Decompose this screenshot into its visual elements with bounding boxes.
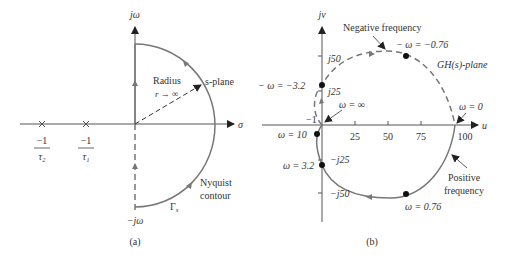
u-axis-label: u bbox=[482, 120, 487, 131]
x-tick-50: 50 bbox=[383, 131, 393, 142]
arrow-icon bbox=[319, 98, 324, 104]
pole1-numerator: −1 bbox=[37, 135, 48, 146]
minus-one-label: −1 bbox=[306, 114, 317, 125]
positive-label: Positive bbox=[448, 172, 481, 183]
panel-a: −1 τ₂ −1 τ₁ jω −jω σ Radius r → ∞ s-plan… bbox=[20, 9, 244, 248]
label-w-neg-32: − ω = −3.2 bbox=[258, 80, 305, 91]
y-tick-j50: j50 bbox=[326, 53, 341, 64]
radius-limit-label: r → ∞ bbox=[155, 89, 178, 99]
y-tick-neg-j25: −j25 bbox=[330, 154, 350, 165]
nyquist-figure: −1 τ₂ −1 τ₁ jω −jω σ Radius r → ∞ s-plan… bbox=[0, 0, 509, 256]
point-neg-32 bbox=[319, 82, 325, 88]
sigma-axis-label: σ bbox=[238, 119, 244, 130]
jw-axis-label: jω bbox=[128, 9, 140, 20]
x-tick-25: 25 bbox=[350, 131, 360, 142]
arrow-up-icon bbox=[132, 80, 138, 86]
panel-b: jv u 25 50 75 100 j50 j25 −j25 −j50 −1 N… bbox=[258, 9, 488, 248]
label-w-neg-076: − ω = −0.76 bbox=[396, 39, 448, 50]
x-tick-100: 100 bbox=[458, 131, 473, 142]
point-32 bbox=[319, 162, 325, 168]
neg-freq-pointer bbox=[373, 36, 385, 49]
point-10 bbox=[314, 131, 320, 137]
jv-axis-label: jv bbox=[316, 9, 326, 20]
label-w-076: ω = 0.76 bbox=[405, 201, 441, 212]
frequency-label: frequency bbox=[444, 185, 484, 196]
point-076 bbox=[403, 191, 409, 197]
label-w-10: ω = 10 bbox=[278, 129, 307, 140]
w-inf-pointer bbox=[325, 110, 342, 122]
s-plane-label: s-plane bbox=[205, 76, 234, 87]
w-zero-pointer bbox=[457, 113, 466, 123]
arrow-right-icon bbox=[369, 51, 375, 57]
pole2-numerator: −1 bbox=[81, 135, 92, 146]
label-w-32: ω = 3.2 bbox=[283, 160, 314, 171]
gamma-label: Γs bbox=[170, 201, 179, 214]
caption-a: (a) bbox=[129, 236, 140, 248]
pole2-denominator: τ₁ bbox=[82, 151, 89, 162]
pos-freq-pointer bbox=[452, 155, 467, 168]
nyquist-label: Nyquist bbox=[200, 177, 232, 188]
contour-label: contour bbox=[200, 190, 231, 201]
pole1-denominator: τ₂ bbox=[38, 151, 46, 162]
point-neg-076 bbox=[403, 53, 409, 59]
neg-jw-axis-label: −jω bbox=[127, 215, 144, 226]
y-tick-j25: j25 bbox=[326, 86, 341, 97]
label-w-inf: ω = ∞ bbox=[339, 99, 365, 110]
y-tick-neg-j50: −j50 bbox=[330, 188, 350, 199]
label-w-zero: ω = 0 bbox=[459, 101, 483, 112]
radius-label: Radius bbox=[153, 75, 181, 86]
caption-b: (b) bbox=[366, 236, 378, 248]
gh-plane-label: GH(s)-plane bbox=[437, 59, 488, 71]
arrow-up-icon bbox=[132, 163, 138, 169]
x-tick-75: 75 bbox=[416, 131, 426, 142]
negative-frequency-label: Negative frequency bbox=[343, 22, 422, 33]
arrow-left-icon bbox=[366, 194, 372, 200]
